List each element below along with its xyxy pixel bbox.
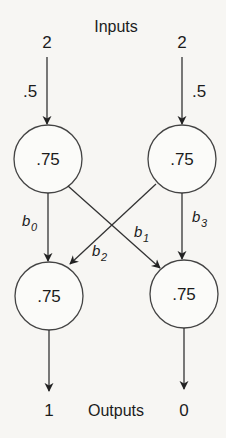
svg-text:2: 2 <box>100 251 107 263</box>
input-value-right: 2 <box>177 33 186 52</box>
edge-label-b1: b 1 <box>134 223 149 244</box>
edge-label-b2: b 2 <box>92 242 107 263</box>
svg-text:0: 0 <box>31 221 38 233</box>
inputs-title: Inputs <box>94 18 138 35</box>
svg-text:3: 3 <box>201 217 208 229</box>
hidden-node-left-value: .75 <box>36 150 60 169</box>
hidden-node-right-value: .75 <box>170 150 194 169</box>
network-diagram: Inputs 2 2 .5 .5 .75 .75 b 0 b 1 b 2 b 3… <box>0 0 226 438</box>
edge-label-b0: b 0 <box>22 212 38 233</box>
svg-text:b: b <box>134 223 142 240</box>
svg-text:1: 1 <box>143 232 149 244</box>
outputs-title: Outputs <box>88 402 144 419</box>
output-node-right-value: .75 <box>172 285 196 304</box>
input-weight-left: .5 <box>23 82 37 101</box>
edge-b2 <box>70 184 156 264</box>
svg-text:b: b <box>192 208 200 225</box>
output-value-right: 0 <box>179 401 188 420</box>
output-node-left-value: .75 <box>37 287 61 306</box>
edge-b1 <box>68 186 160 268</box>
svg-text:b: b <box>22 212 30 229</box>
input-weight-right: .5 <box>192 82 206 101</box>
svg-text:b: b <box>92 242 100 259</box>
edge-label-b3: b 3 <box>192 208 208 229</box>
output-value-left: 1 <box>44 401 53 420</box>
input-value-left: 2 <box>42 33 51 52</box>
